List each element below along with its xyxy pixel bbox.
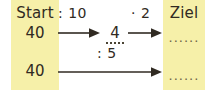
operation-label-row-1-step-1: : 10 [58,6,100,20]
operation-label-row-2-step-1: : 5 [97,46,137,60]
intermediate-value-text: 4 [106,26,124,44]
arrow-chain-worksheet: Start Ziel 40 : 10 4 · 2 ...... 40 : 5 . [0,0,214,90]
ziel-blank-row-1: ...... [163,30,205,45]
arrow-right-icon [127,25,163,44]
intermediate-value-row-1: 4 [103,26,127,44]
arrow-right-icon [57,25,101,44]
operation-label-row-1-step-2: · 2 [131,6,171,20]
start-value-row-1: 40 [11,26,59,41]
start-column-header: Start [11,6,59,21]
arrow-right-icon [57,64,163,83]
start-value-row-2: 40 [11,64,59,79]
ziel-blank-row-2: ...... [163,68,205,83]
